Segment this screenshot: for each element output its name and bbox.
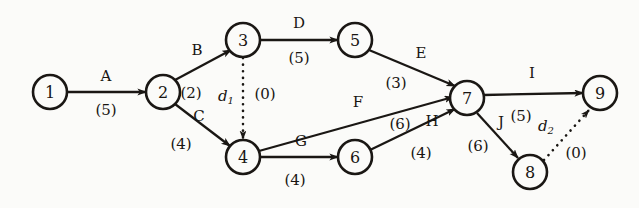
nodes-layer: 123456789 [33, 23, 617, 189]
node-7: 7 [450, 81, 484, 115]
dummy-duration-label-d2: (0) [565, 144, 586, 162]
node-label-9: 9 [595, 84, 605, 103]
activity-label-f: F [353, 93, 363, 111]
network-diagram-canvas: 123456789 A(5)B(2)C(4)D(5)E(3)F(6)G(4)H(… [0, 0, 639, 208]
node-label-4: 4 [238, 148, 248, 167]
activity-label-j: J [496, 113, 504, 131]
node-8: 8 [513, 155, 547, 189]
node-6: 6 [338, 140, 372, 174]
activity-label-b: B [191, 41, 202, 59]
activity-label-d: D [293, 14, 305, 32]
dummy-label-base-d1: d [218, 87, 228, 105]
node-label-2: 2 [158, 83, 168, 102]
node-2: 2 [146, 75, 180, 109]
node-label-7: 7 [462, 89, 472, 108]
node-label-5: 5 [350, 31, 360, 50]
duration-label-d: (5) [288, 49, 309, 67]
duration-label-j: (6) [467, 137, 488, 155]
dummy-activity-label-d2: d2 [538, 117, 554, 135]
network-diagram: 123456789 A(5)B(2)C(4)D(5)E(3)F(6)G(4)H(… [0, 0, 639, 208]
activity-label-c: C [193, 107, 204, 125]
node-label-6: 6 [350, 148, 360, 167]
activity-label-e: E [416, 44, 427, 62]
node-3: 3 [226, 23, 260, 57]
activity-label-g: G [295, 132, 307, 150]
node-4: 4 [226, 140, 260, 174]
node-label-3: 3 [238, 31, 248, 50]
activity-label-a: A [100, 67, 112, 85]
duration-label-a: (5) [95, 101, 116, 119]
dummy-label-subscript-d2: 2 [547, 124, 554, 135]
node-1: 1 [33, 75, 67, 109]
duration-label-i: (5) [510, 107, 531, 125]
dummy-activity-label-d1: d1 [218, 87, 234, 105]
dummy-label-subscript-d1: 1 [228, 94, 234, 105]
activity-label-h: H [425, 112, 438, 130]
duration-label-h: (4) [410, 144, 431, 162]
node-label-8: 8 [525, 163, 535, 182]
node-9: 9 [583, 76, 617, 110]
activity-label-i: I [529, 64, 535, 82]
dummy-label-base-d2: d [538, 117, 548, 135]
edge-i [484, 93, 583, 95]
edges-layer [67, 40, 583, 158]
duration-label-c: (4) [170, 135, 191, 153]
edge-e [369, 50, 455, 86]
node-5: 5 [338, 23, 372, 57]
duration-label-f: (6) [389, 115, 410, 133]
node-label-1: 1 [45, 83, 55, 102]
dummy-duration-label-d1: (0) [254, 85, 275, 103]
duration-label-e: (3) [385, 74, 406, 92]
edge-b [175, 50, 231, 80]
duration-label-b: (2) [180, 84, 201, 102]
duration-label-g: (4) [284, 171, 305, 189]
